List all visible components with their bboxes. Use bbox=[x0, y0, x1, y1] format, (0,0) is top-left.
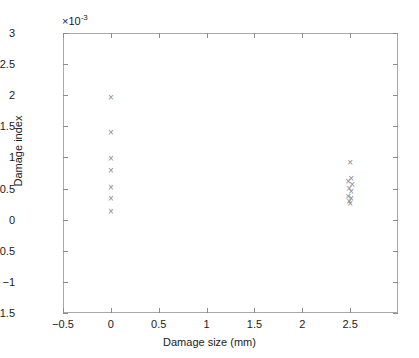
y-tick-label: −1.5 bbox=[0, 307, 15, 319]
data-point-marker: × bbox=[106, 154, 115, 163]
data-point-marker: × bbox=[345, 197, 354, 206]
y-tick-mark-right bbox=[393, 64, 398, 65]
x-tick-label: 0.5 bbox=[151, 318, 166, 330]
y-axis-exponent-power: -3 bbox=[81, 13, 88, 22]
y-tick-mark-right bbox=[393, 189, 398, 190]
data-point-marker: × bbox=[344, 192, 353, 201]
y-tick-label: −0.5 bbox=[0, 245, 15, 257]
x-tick-mark-top bbox=[159, 33, 160, 38]
x-tick-mark-top bbox=[63, 33, 64, 38]
y-tick-mark bbox=[63, 95, 68, 96]
data-point-marker: × bbox=[348, 180, 357, 189]
data-point-marker: × bbox=[106, 183, 115, 192]
x-tick-mark-top bbox=[350, 33, 351, 38]
y-axis-exponent-label: ×10-3 bbox=[62, 13, 88, 27]
data-point-marker: × bbox=[106, 93, 115, 102]
y-tick-mark-right bbox=[393, 126, 398, 127]
x-tick-mark bbox=[159, 308, 160, 313]
y-tick-mark-right bbox=[393, 33, 398, 34]
data-point-marker: × bbox=[347, 174, 356, 183]
x-tick-mark-top bbox=[111, 33, 112, 38]
y-tick-mark bbox=[63, 189, 68, 190]
y-tick-mark-right bbox=[393, 251, 398, 252]
y-tick-mark bbox=[63, 64, 68, 65]
x-tick-mark bbox=[63, 308, 64, 313]
x-tick-mark bbox=[254, 308, 255, 313]
x-tick-mark bbox=[111, 308, 112, 313]
data-point-marker: × bbox=[347, 194, 356, 203]
y-tick-mark bbox=[63, 126, 68, 127]
x-tick-mark bbox=[207, 308, 208, 313]
scatter-plot-figure: ×10-3 ××××××××××××××××× −1.5−1−0.500.511… bbox=[0, 0, 419, 358]
y-tick-mark-right bbox=[393, 157, 398, 158]
y-axis-exponent-base: ×10 bbox=[62, 15, 81, 27]
x-tick-label: 0 bbox=[108, 318, 114, 330]
data-point-marker: × bbox=[106, 128, 115, 137]
x-tick-label: 2 bbox=[299, 318, 305, 330]
y-tick-mark bbox=[63, 157, 68, 158]
data-point-marker: × bbox=[346, 158, 355, 167]
x-tick-mark bbox=[302, 308, 303, 313]
y-tick-mark bbox=[63, 313, 68, 314]
x-tick-mark-top bbox=[254, 33, 255, 38]
data-point-marker: × bbox=[106, 194, 115, 203]
y-axis-title: Damage index bbox=[12, 96, 24, 206]
x-tick-mark-top bbox=[302, 33, 303, 38]
y-tick-mark bbox=[63, 251, 68, 252]
y-tick-label: −1 bbox=[2, 276, 15, 288]
data-point-marker: × bbox=[106, 166, 115, 175]
y-tick-mark-right bbox=[393, 313, 398, 314]
y-tick-mark-right bbox=[393, 220, 398, 221]
data-point-marker: × bbox=[346, 199, 355, 208]
y-tick-mark bbox=[63, 220, 68, 221]
x-tick-label: 2.5 bbox=[342, 318, 357, 330]
x-tick-label: 1 bbox=[204, 318, 210, 330]
x-tick-label: −0.5 bbox=[52, 318, 74, 330]
data-point-marker: × bbox=[347, 187, 356, 196]
x-tick-mark-top bbox=[207, 33, 208, 38]
data-point-marker: × bbox=[106, 207, 115, 216]
y-tick-label: 3 bbox=[9, 27, 15, 39]
x-tick-mark bbox=[350, 308, 351, 313]
x-tick-label: 1.5 bbox=[247, 318, 262, 330]
y-tick-label: 2.5 bbox=[0, 58, 15, 70]
y-tick-mark bbox=[63, 282, 68, 283]
y-tick-mark-right bbox=[393, 95, 398, 96]
x-axis-title: Damage size (mm) bbox=[0, 336, 419, 348]
data-point-marker: × bbox=[345, 184, 354, 193]
y-tick-mark-right bbox=[393, 282, 398, 283]
plot-area: ××××××××××××××××× bbox=[63, 33, 398, 313]
data-point-marker: × bbox=[344, 177, 353, 186]
y-tick-label: 0 bbox=[9, 214, 15, 226]
